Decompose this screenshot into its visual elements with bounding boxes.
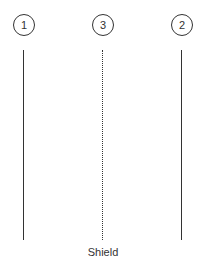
solid-line-1 — [23, 50, 24, 240]
node-circle-3: 3 — [92, 14, 114, 36]
node-label-2: 2 — [179, 19, 185, 31]
node-label-1: 1 — [21, 19, 27, 31]
node-circle-2: 2 — [171, 14, 193, 36]
diagram-caption: Shield — [72, 246, 134, 258]
node-circle-1: 1 — [13, 14, 35, 36]
node-label-3: 3 — [100, 19, 106, 31]
dotted-line-3 — [102, 50, 103, 240]
solid-line-2 — [181, 50, 182, 240]
